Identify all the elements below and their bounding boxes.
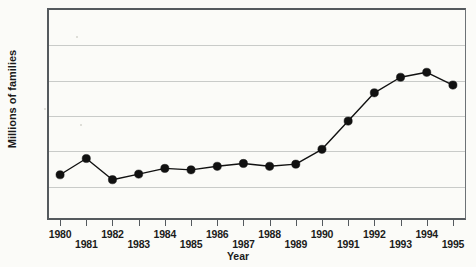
x-axis-tick — [401, 220, 402, 226]
scan-speckle — [76, 36, 78, 38]
data-point — [56, 171, 64, 179]
data-point — [370, 89, 378, 97]
data-point — [239, 159, 247, 167]
data-point — [161, 164, 169, 172]
x-axis-tick — [243, 220, 244, 226]
data-point — [292, 160, 300, 168]
y-axis-title: Millions of families — [6, 24, 18, 174]
data-point — [265, 162, 273, 170]
x-axis-tick — [322, 220, 323, 226]
x-axis-tick-label: 1984 — [154, 228, 177, 240]
data-point — [135, 170, 143, 178]
x-axis-tick-label: 1986 — [206, 228, 229, 240]
x-axis-tick-label: 1995 — [442, 238, 465, 250]
x-axis-tick-label: 1993 — [389, 238, 412, 250]
x-axis-tick — [191, 220, 192, 226]
data-point — [108, 176, 116, 184]
scan-speckle — [44, 108, 46, 110]
x-axis-tick — [217, 220, 218, 226]
x-axis-tick — [374, 220, 375, 226]
data-point — [213, 162, 221, 170]
x-axis-tick — [427, 220, 428, 226]
x-axis-tick-label: 1982 — [101, 228, 124, 240]
x-axis-tick-label: 1989 — [285, 238, 308, 250]
x-axis-title: Year — [0, 250, 476, 262]
x-axis-tick — [453, 220, 454, 226]
data-point — [423, 68, 431, 76]
x-axis-tick — [139, 220, 140, 226]
data-series — [47, 8, 466, 220]
x-axis-tick-label: 1980 — [49, 228, 72, 240]
x-axis-tick — [112, 220, 113, 226]
x-axis-tick-label: 1992 — [363, 228, 386, 240]
x-axis-tick-label: 1991 — [337, 238, 360, 250]
series-markers — [56, 68, 457, 184]
x-axis-tick-label: 1985 — [180, 238, 203, 250]
data-point — [318, 145, 326, 153]
x-axis-tick — [165, 220, 166, 226]
x-axis-tick-label: 1981 — [75, 238, 98, 250]
x-axis-tick — [348, 220, 349, 226]
data-point — [187, 166, 195, 174]
data-point — [82, 154, 90, 162]
x-axis-tick — [60, 220, 61, 226]
data-point — [396, 73, 404, 81]
data-point — [344, 117, 352, 125]
x-axis-tick — [86, 220, 87, 226]
x-axis-tick-label: 1983 — [127, 238, 150, 250]
x-axis-tick-label: 1987 — [232, 238, 255, 250]
x-axis-tick — [296, 220, 297, 226]
data-point — [449, 81, 457, 89]
x-axis-tick — [270, 220, 271, 226]
x-axis-tick-label: 1988 — [258, 228, 281, 240]
x-axis-tick-label: 1994 — [415, 228, 438, 240]
line-chart: Millions of families 3.03.54.04.55.05.56… — [0, 0, 476, 267]
scan-speckle — [80, 124, 82, 126]
series-line — [60, 72, 453, 179]
x-axis-tick-label: 1990 — [311, 228, 334, 240]
